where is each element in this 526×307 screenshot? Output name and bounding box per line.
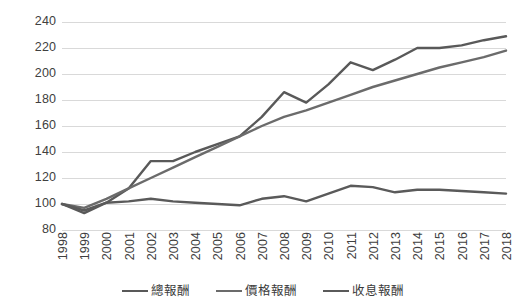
legend-item[interactable]: 總報酬 [122,284,190,298]
x-tick-label: 2004 [190,232,203,260]
y-tick-label: 240 [4,15,56,28]
y-tick-label: 80 [4,223,56,236]
x-tick-label: 2001 [124,232,137,260]
x-tick-label: 1998 [57,232,70,260]
plot-area [62,22,506,230]
x-tick-label: 2012 [368,232,381,260]
legend-line-icon [323,290,349,292]
x-tick-label: 2015 [434,232,447,260]
series-lines [62,36,506,213]
x-tick-label: 2008 [279,232,292,260]
legend-item[interactable]: 收息報酬 [323,284,404,298]
y-axis: 80100120140160180200220240 [0,0,56,230]
x-tick-label: 2011 [346,232,359,259]
x-tick-label: 2017 [479,232,492,260]
line-chart: 80100120140160180200220240 1998199920002… [0,0,526,307]
legend-label: 價格報酬 [245,284,297,298]
x-tick-label: 2007 [257,232,270,260]
legend-item[interactable]: 價格報酬 [216,284,297,298]
legend-label: 收息報酬 [352,284,404,298]
x-tick-label: 2006 [235,232,248,260]
x-tick-label: 2009 [301,232,314,260]
x-tick-label: 2000 [101,232,114,260]
y-tick-label: 160 [4,119,56,132]
chart-legend: 總報酬價格報酬收息報酬 [0,279,526,303]
legend-label: 總報酬 [151,284,190,298]
legend-line-icon [122,290,148,292]
plot-svg [62,22,506,230]
x-tick-label: 2005 [212,232,225,260]
x-tick-label: 1999 [79,232,92,260]
x-tick-label: 2003 [168,232,181,260]
series-line-0 [62,36,506,213]
x-tick-label: 2010 [323,232,336,260]
legend-line-icon [216,290,242,292]
x-tick-label: 2014 [412,232,425,260]
gridlines [62,22,506,230]
x-tick-label: 2016 [457,232,470,260]
y-tick-label: 200 [4,67,56,80]
x-tick-label: 2002 [146,232,159,260]
y-tick-label: 180 [4,93,56,106]
y-tick-label: 100 [4,197,56,210]
x-tick-label: 2018 [501,232,514,260]
x-tick-label: 2013 [390,232,403,260]
y-tick-label: 140 [4,145,56,158]
x-axis: 1998199920002001200220032004200520062007… [62,232,506,276]
y-tick-label: 220 [4,41,56,54]
y-tick-label: 120 [4,171,56,184]
